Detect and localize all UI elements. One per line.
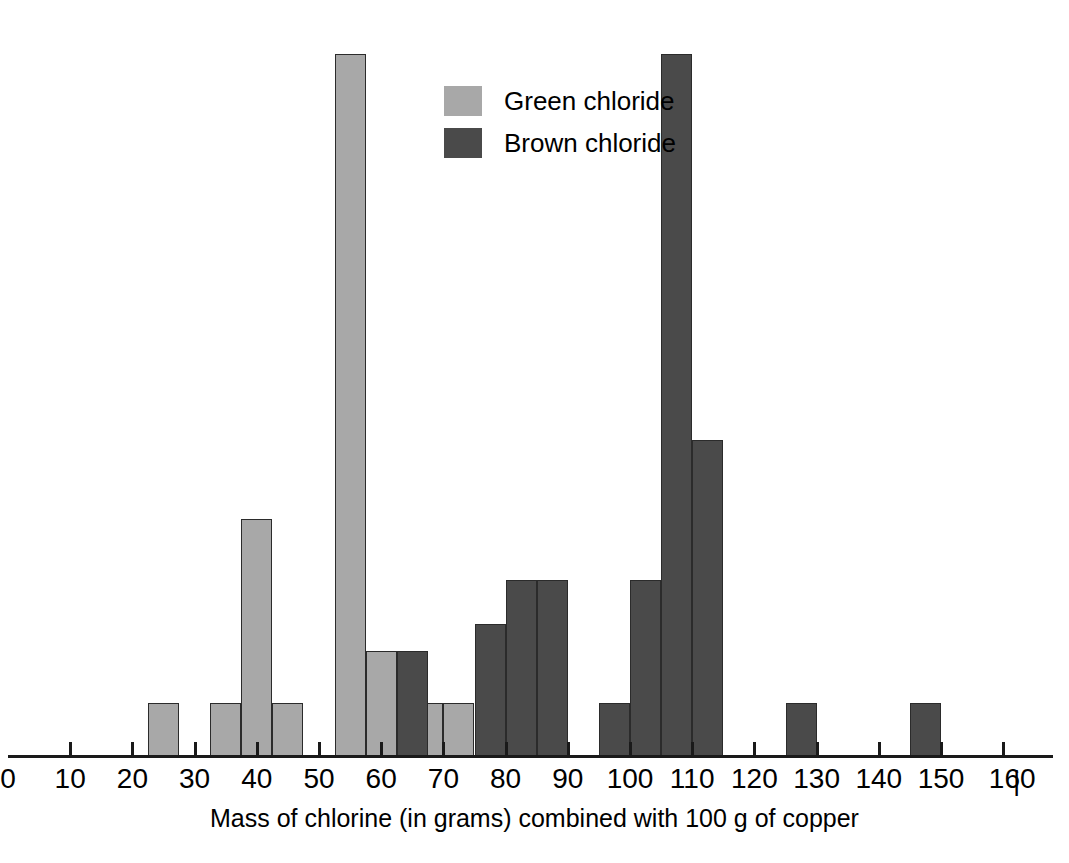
axis-tick-label: 80 [476,762,536,796]
bar-brown [692,440,723,756]
axis-tick-label: 110 [662,762,722,796]
bar-brown [506,580,537,756]
axis-tick-label: 120 [724,762,784,796]
bar-green [272,703,303,756]
axis-tick-label: 100 [600,762,660,796]
axis-tick [318,742,321,756]
axis-tick [442,742,445,756]
bar-green [148,703,179,756]
axis-tick [194,742,197,756]
bar-brown [630,580,661,756]
axis-tick-label: 10 [40,762,100,796]
x-axis-line [8,755,1053,758]
axis-end-divider: | [1013,764,1020,798]
bar-brown [910,703,941,756]
legend-label-brown: Brown chloride [504,128,676,158]
axis-tick [691,742,694,756]
bar-brown [475,624,506,756]
axis-tick [753,742,756,756]
axis-tick [69,742,72,756]
x-axis-title: Mass of chlorine (in grams) combined wit… [0,802,1069,834]
legend-label-green: Green chloride [504,86,675,116]
axis-tick-label: 60 [351,762,411,796]
legend-swatch-green-icon [444,86,482,116]
chart-page: 0102030405060708090100110120130140150160… [0,0,1069,863]
legend-item-brown: Brown chloride [444,122,676,164]
axis-tick-label: 50 [289,762,349,796]
bar-brown [537,580,568,756]
legend-item-green: Green chloride [444,80,676,122]
axis-tick-label: 150 [911,762,971,796]
axis-tick [567,742,570,756]
bar-green [210,703,241,756]
axis-tick [131,742,134,756]
bar-green [241,519,272,756]
axis-tick [505,742,508,756]
axis-tick-label: 30 [165,762,225,796]
axis-tick-label: 140 [849,762,909,796]
bar-green [366,651,397,756]
axis-tick-label: 0 [0,762,38,796]
axis-tick [256,742,259,756]
chart-legend: Green chloride Brown chloride [444,80,676,164]
axis-tick [380,742,383,756]
axis-tick-label: 90 [538,762,598,796]
legend-swatch-brown-icon [444,128,482,158]
axis-tick-label: 20 [102,762,162,796]
bar-green [443,703,474,756]
axis-tick-label: 70 [413,762,473,796]
axis-tick [816,742,819,756]
axis-tick [1002,742,1005,756]
bar-green [335,54,366,756]
axis-tick-label: 40 [227,762,287,796]
axis-tick [629,742,632,756]
axis-tick-label: 130 [787,762,847,796]
axis-tick [940,742,943,756]
axis-tick [878,742,881,756]
bar-brown [599,703,630,756]
bar-brown [397,651,428,756]
bar-brown [786,703,817,756]
